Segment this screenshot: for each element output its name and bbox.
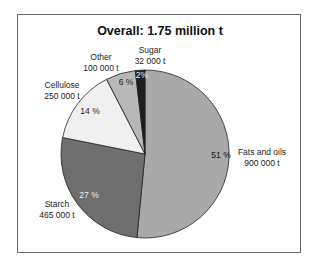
label-fats-value: 900 000 t — [244, 158, 280, 168]
pct-sugar: 2% — [136, 70, 149, 80]
slice-starch — [61, 138, 145, 238]
label-cellulose-name: Cellulose — [45, 80, 80, 90]
label-sugar-name: Sugar — [139, 45, 162, 55]
pct-fats: 51 % — [211, 150, 231, 160]
label-starch-name: Starch — [45, 199, 70, 209]
label-other-name: Other — [90, 52, 111, 62]
pct-starch: 27 % — [79, 190, 99, 200]
pct-other: 6 % — [119, 77, 134, 87]
label-fats-name: Fats and oils — [238, 147, 286, 157]
pct-cellulose: 14 % — [80, 106, 100, 116]
label-other-value: 100 000 t — [83, 63, 119, 73]
pie-chart: Overall: 1.75 million t 51 % 27 % 14 % 6… — [0, 0, 318, 269]
label-sugar-value: 32 000 t — [135, 56, 166, 66]
label-starch-value: 465 000 t — [39, 210, 75, 220]
label-cellulose-value: 250 000 t — [44, 91, 80, 101]
chart-title: Overall: 1.75 million t — [97, 24, 224, 38]
